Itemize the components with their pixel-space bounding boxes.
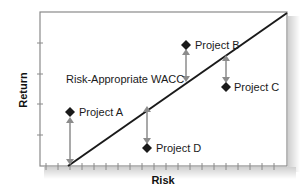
project-a-label: Project A	[79, 106, 124, 118]
frame-shadow-right	[288, 16, 300, 172]
wacc-label: Risk-Appropriate WACC	[66, 73, 184, 85]
project-c-label: Project C	[234, 81, 279, 93]
risk-return-chart: Project A Project B Project C Project D …	[0, 0, 304, 195]
y-axis-title: Return	[17, 72, 29, 108]
project-b-label: Project B	[195, 39, 240, 51]
project-d-label: Project D	[156, 142, 201, 154]
x-axis-title: Risk	[151, 174, 175, 186]
